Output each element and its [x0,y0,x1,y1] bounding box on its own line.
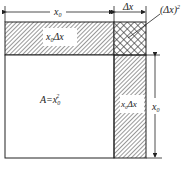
square-growth-diagram: x0 Δx (Δx)2 x0Δx x0Δx A=x02 x0 [0,0,188,180]
corner-square [114,22,146,55]
main-square [5,55,114,158]
dx-squared-label: (Δx)2 [160,4,180,16]
x0dx-right-strip-label: x0Δx [120,99,137,110]
dx-top-label: Δx [122,1,134,12]
area-label: A=x02 [39,93,60,106]
x0dx-top-strip-label: x0Δx [45,31,64,43]
